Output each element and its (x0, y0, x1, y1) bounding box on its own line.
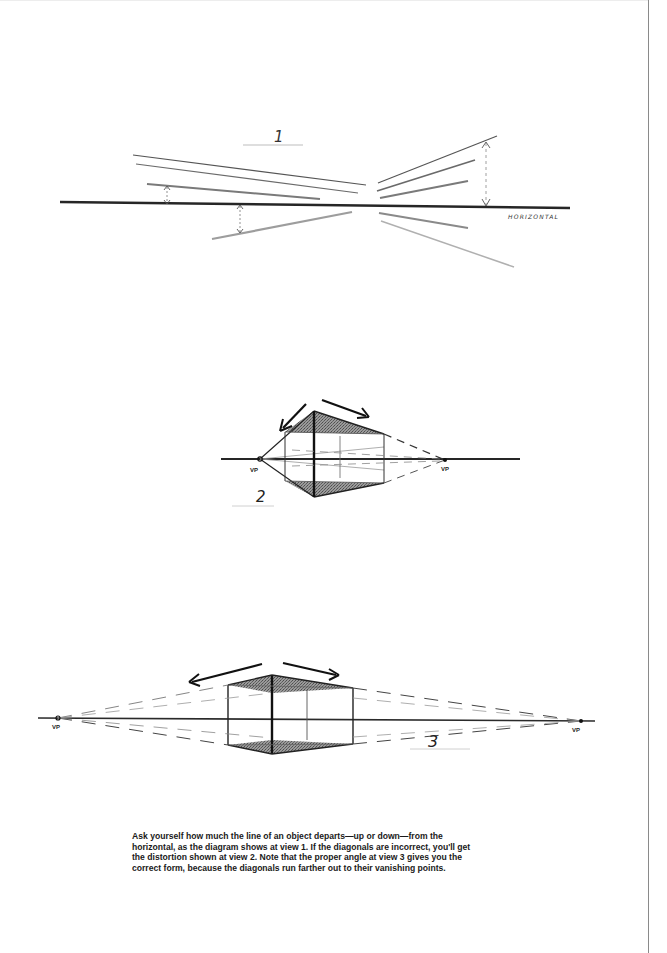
view-1-label: 1 (274, 128, 284, 146)
arrow-right (283, 663, 336, 675)
vp-left-label: VP (52, 724, 60, 730)
arrow-right (322, 400, 366, 416)
diagram-1: 1 HORIZONTAL (60, 128, 570, 267)
right-line-1 (378, 136, 497, 183)
vp-line (260, 459, 384, 470)
diagram-3: VP VP 3 (38, 663, 595, 754)
vp-line (260, 447, 384, 459)
diagram-2: VP VP 2 (221, 400, 520, 506)
horizon-line (60, 202, 570, 208)
figure-caption: Ask yourself how much the line of an obj… (132, 831, 472, 873)
vp-left-label: VP (250, 467, 258, 473)
vp-line (260, 459, 314, 497)
dashed-vp-line (353, 721, 581, 744)
vp-right-label: VP (572, 727, 580, 733)
bottom-plane (285, 481, 384, 497)
right-line-3 (380, 181, 468, 198)
vanishing-point-right (579, 719, 583, 723)
left-line-3 (147, 184, 320, 199)
right-line-below-1 (379, 213, 468, 228)
vp-line (260, 411, 314, 459)
horizon-label: HORIZONTAL (508, 213, 559, 220)
horizon-line (38, 718, 595, 721)
vp-right-label: VP (441, 466, 449, 472)
top-plane-right (285, 411, 384, 434)
dashed-vp-line (58, 693, 272, 718)
left-line-below (212, 212, 352, 239)
left-line-1 (133, 155, 366, 185)
dashed-vp-line (353, 721, 581, 737)
dashed-vp-line (353, 688, 581, 721)
right-line-below-2 (381, 221, 514, 267)
view-3-label: 3 (428, 732, 438, 751)
view-2-label: 2 (256, 488, 266, 506)
perspective-illustration: 1 HORIZONTAL (0, 0, 667, 953)
dashed-vp-line (353, 698, 581, 721)
vanishing-point-right (443, 458, 447, 462)
dashed-vp-line (384, 460, 445, 483)
